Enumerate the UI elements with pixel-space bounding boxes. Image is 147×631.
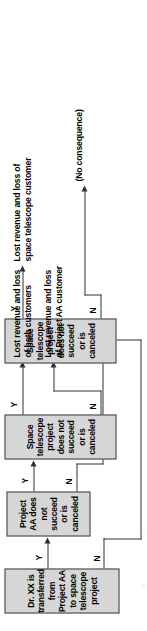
connector-n1-no-seg1 (103, 538, 104, 568)
connector-n3-yes (22, 364, 23, 414)
branch-label-n2-yes: Y (20, 477, 29, 483)
branch-label-n2-no: N (64, 478, 73, 484)
connector-n2-yes (33, 463, 34, 491)
connector-n1-yes (47, 541, 48, 568)
scan-artifact (141, 532, 145, 533)
scan-artifact (141, 585, 145, 586)
outcome-no-consequence: (No consequence) (73, 71, 84, 181)
connector-n4-no-seg3 (84, 188, 85, 295)
outcome-lost-space-telescope-customer: Lost revenue and loss of space telescope… (11, 129, 32, 261)
connector-n4-no-seg1 (100, 294, 101, 318)
branch-label-n3-no: N (88, 403, 97, 409)
connector-n1-no-seg3 (140, 339, 141, 539)
arrowhead-n1-yes (44, 537, 50, 543)
decision-node-project-aa-fails[interactable]: Project AA does not succeed or is cancel… (6, 491, 90, 536)
decision-node-space-telescope-fails-upper[interactable]: Space telescope project does not succeed… (4, 414, 116, 459)
outcome-lost-project-aa-customer: Lost revenue and loss of Project AA cust… (42, 232, 63, 357)
connector-n1-no-seg2 (103, 538, 141, 539)
connector-n2-no-seg2 (76, 463, 103, 464)
decision-node-transfer[interactable]: Dr. XX is transferred from Project AA to… (4, 568, 119, 613)
connector-n4-no-seg2 (84, 294, 101, 295)
branch-label-n3-yes: Y (9, 401, 18, 407)
arrowhead-n2-yes (30, 460, 36, 466)
connector-n3-no-seg3 (53, 364, 54, 391)
connector-n3-no-seg1 (100, 390, 101, 414)
flowchart-canvas: Dr. XX is transferred from Project AA to… (0, 0, 147, 631)
branch-label-n1-no: N (92, 555, 101, 561)
branch-label-n4-no: N (88, 307, 97, 313)
connector-n2-no-seg1 (76, 463, 77, 491)
connector-n3-no-seg2 (53, 390, 101, 391)
branch-label-n1-yes: Y (34, 554, 43, 560)
arrowhead-n4-no (81, 185, 87, 191)
